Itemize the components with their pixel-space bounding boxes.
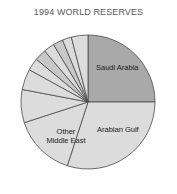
slice-label-arabian-gulf: Arabian Gulf	[97, 126, 139, 135]
slice-label-other-middle-east-line2: Middle East	[46, 136, 85, 145]
pie-chart-figure: 1994 WORLD RESERVES Saudi Arabia Arabian…	[0, 0, 177, 194]
pie-slices-group	[21, 35, 155, 169]
slice-label-other-middle-east: Other Middle East	[39, 128, 93, 145]
pie-chart-svg	[0, 0, 177, 194]
slice-label-saudi-arabia: Saudi Arabia	[96, 64, 139, 73]
